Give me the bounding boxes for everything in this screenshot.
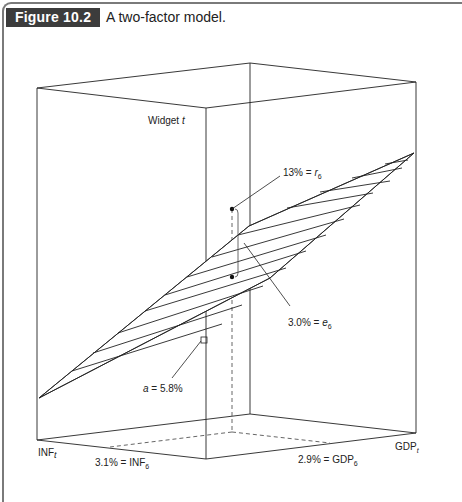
gdp-axis-label: GDPt	[395, 441, 420, 454]
inf6-label: 3.1% = INF6	[95, 457, 149, 470]
widget-axis-label: Widget t	[148, 115, 186, 126]
inf-axis-label: INFt	[38, 447, 57, 460]
predicted-return-dot	[230, 275, 234, 279]
regression-plane	[39, 153, 414, 398]
r6-label: 13% = r6	[283, 167, 322, 180]
intercept-label: a = 5.8%	[143, 383, 183, 394]
e6-label: 3.0% = e6	[288, 317, 332, 330]
gdp6-label: 2.9% = GDP6	[298, 454, 358, 467]
